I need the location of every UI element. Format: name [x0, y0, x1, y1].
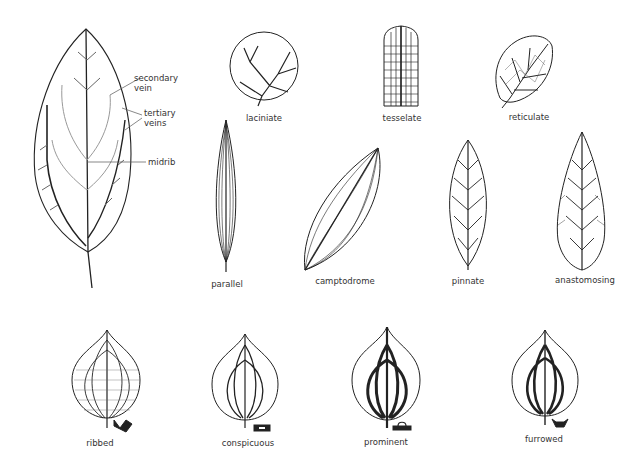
leaf-furrowed: [512, 330, 578, 427]
annotated-leaf-figure: [34, 29, 146, 288]
leaf-ribbed: [72, 330, 140, 432]
leaf-laciniate: [230, 32, 298, 106]
leaf-venation-diagram: secondary vein tertiary veins midrib lac…: [0, 0, 628, 457]
callout-text: secondary: [134, 73, 178, 83]
leaf-reticulate: [496, 36, 553, 108]
leaf-camptodrome: [304, 148, 380, 270]
label-prominent: prominent: [364, 437, 408, 447]
label-furrowed: furrowed: [525, 434, 563, 444]
leaf-parallel: [216, 120, 236, 272]
label-laciniate: laciniate: [246, 113, 282, 123]
label-tesselate: tesselate: [383, 113, 422, 123]
callout-midrib: midrib: [148, 157, 175, 167]
label-camptodrome: camptodrome: [315, 276, 375, 286]
label-ribbed: ribbed: [86, 438, 113, 448]
label-parallel: parallel: [211, 279, 243, 289]
callout-text: vein: [134, 83, 152, 93]
leaf-pinnate: [450, 140, 487, 270]
leaf-tesselate: [384, 26, 418, 106]
label-reticulate: reticulate: [509, 112, 549, 122]
callout-text: veins: [144, 118, 166, 128]
callout-tertiary-veins: tertiary veins: [144, 108, 176, 128]
callout-secondary-vein: secondary vein: [134, 73, 178, 93]
leaf-prominent: [352, 327, 420, 430]
callout-text: tertiary: [144, 108, 176, 118]
label-conspicuous: conspicuous: [222, 438, 275, 448]
label-pinnate: pinnate: [452, 276, 484, 286]
leaf-anastomosing: [557, 132, 604, 270]
label-anastomosing: anastomosing: [555, 275, 615, 285]
leaf-conspicuous: [212, 334, 278, 431]
